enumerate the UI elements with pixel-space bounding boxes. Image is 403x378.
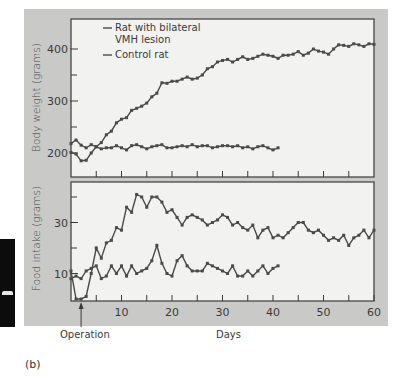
y-tick-label: 200 — [47, 147, 68, 160]
y-tick-label: 400 — [47, 43, 68, 56]
operation-arrow-icon — [79, 302, 84, 327]
bottom-y-axis-label: Food intake (grams) — [30, 186, 42, 291]
panel-label: (b) — [25, 358, 41, 371]
y-tick-label: 10 — [54, 268, 68, 281]
x-tick-label: 10 — [115, 306, 129, 319]
x-tick-label: 50 — [317, 306, 331, 319]
x-tick-label: 20 — [165, 306, 179, 319]
svg-text:VMH lesion: VMH lesion — [115, 34, 171, 45]
body-weight-chart: 200300400Rat with bilateralVMH lesionCon… — [47, 19, 376, 177]
y-tick-label: 300 — [47, 95, 68, 108]
operation-annotation: Operation — [60, 329, 110, 340]
x-tick-label: 30 — [216, 306, 230, 319]
svg-text:Control rat: Control rat — [115, 49, 169, 60]
chart-canvas: 200300400Rat with bilateralVMH lesionCon… — [0, 0, 403, 378]
x-axis-label: Days — [216, 329, 241, 340]
top-y-axis-label: Body weight (grams) — [30, 43, 42, 152]
x-tick-label: 60 — [367, 306, 381, 319]
x-tick-label: 40 — [266, 306, 280, 319]
y-tick-label: 30 — [54, 217, 68, 230]
food-intake-chart: 1030102030405060 — [54, 182, 381, 319]
svg-text:Rat with bilateral: Rat with bilateral — [115, 22, 200, 33]
